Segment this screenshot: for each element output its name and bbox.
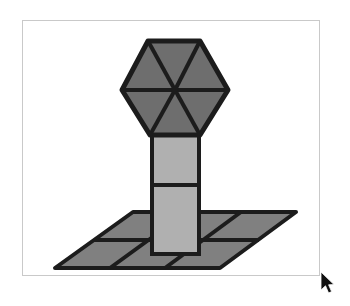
column-upper-face[interactable] xyxy=(152,135,199,185)
column-lower[interactable] xyxy=(152,185,199,254)
column-lower-face[interactable] xyxy=(152,185,199,254)
isometric-block-scene[interactable] xyxy=(0,0,350,306)
column-upper[interactable] xyxy=(152,135,199,185)
hexagon-head[interactable] xyxy=(122,41,228,135)
app-root: Shape Viewer xyxy=(0,0,350,306)
